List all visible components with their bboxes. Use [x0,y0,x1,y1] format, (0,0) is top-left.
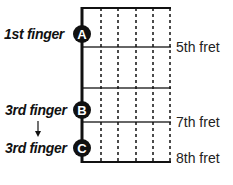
svg-text:B: B [77,103,86,118]
marker-c: C [73,139,91,157]
fret-label-8th: 8th fret [176,150,220,166]
fretboard-diagram: A B C 1st finger 3rd finger 3rd finger 5… [0,0,233,185]
fret-label-7th: 7th fret [176,114,220,130]
finger-label-3rd-b: 3rd finger [5,102,67,118]
fret-label-5th: 5th fret [176,39,220,55]
marker-a: A [73,25,91,43]
svg-text:C: C [77,141,87,156]
marker-b: B [73,101,91,119]
arrow-down-icon [35,121,41,137]
finger-label-1st: 1st finger [4,26,64,42]
finger-label-3rd-c: 3rd finger [5,140,67,156]
dashed-strings [101,8,170,162]
svg-text:A: A [77,27,87,42]
